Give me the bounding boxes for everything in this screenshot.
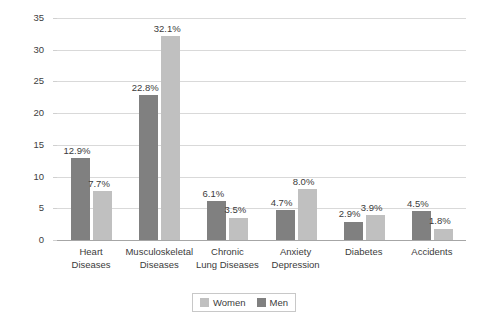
bar-men[interactable] [71, 158, 90, 240]
bar-group: 4.5%1.8% [398, 18, 466, 240]
bar-value-label: 8.0% [282, 177, 326, 187]
bar-group: 6.1%3.5% [193, 18, 261, 240]
bar-value-label: 6.1% [191, 189, 235, 199]
bar-women[interactable] [229, 218, 248, 240]
bar-group: 4.7%8.0% [262, 18, 330, 240]
y-tick-label-25: 25 [14, 76, 44, 86]
bar-pair: 2.9%3.9% [330, 18, 398, 240]
y-tick-label-20: 20 [14, 108, 44, 118]
bar-chart: Percent Contribution to Later-Life Disab… [0, 0, 482, 323]
bar-value-label: 32.1% [145, 24, 189, 34]
bar-group: 22.8%32.1% [125, 18, 193, 240]
bar-women[interactable] [366, 215, 385, 240]
bar-women[interactable] [161, 36, 180, 240]
bar-men[interactable] [276, 210, 295, 240]
bar-value-label: 12.9% [55, 146, 99, 156]
y-tick-label-15: 15 [14, 140, 44, 150]
bar-group: 2.9%3.9% [330, 18, 398, 240]
bar-women[interactable] [298, 189, 317, 240]
y-tick-label-35: 35 [14, 13, 44, 23]
legend-swatch-icon [200, 298, 209, 307]
bar-pair: 6.1%3.5% [193, 18, 261, 240]
bar-value-label: 7.7% [77, 179, 121, 189]
y-tick-label-0: 0 [14, 235, 44, 245]
axis-baseline [57, 240, 466, 241]
category-label-line: Depression [251, 259, 341, 272]
bar-value-label: 1.8% [418, 216, 462, 226]
y-tick-label-30: 30 [14, 45, 44, 55]
bar-pair: 12.9%7.7% [57, 18, 125, 240]
bar-men[interactable] [344, 222, 363, 240]
bar-group: 12.9%7.7% [57, 18, 125, 240]
bar-men[interactable] [139, 95, 158, 240]
bar-women[interactable] [93, 191, 112, 240]
plot-area: 05101520253035 12.9%7.7%22.8%32.1%6.1%3.… [57, 18, 466, 241]
y-tick-label-5: 5 [14, 203, 44, 213]
chart-legend: WomenMen [192, 293, 296, 312]
legend-item-men[interactable]: Men [257, 298, 288, 308]
legend-item-women[interactable]: Women [200, 298, 246, 308]
bar-pair: 4.7%8.0% [262, 18, 330, 240]
legend-label: Women [213, 298, 246, 308]
bar-women[interactable] [434, 229, 453, 240]
category-label-line: Accidents [387, 246, 477, 259]
bar-value-label: 3.9% [350, 203, 394, 213]
legend-label: Men [270, 298, 288, 308]
legend-swatch-icon [257, 298, 266, 307]
y-tick-label-10: 10 [14, 172, 44, 182]
bar-value-label: 4.5% [396, 199, 440, 209]
category-label: Accidents [387, 246, 477, 259]
bar-value-label: 3.5% [213, 205, 257, 215]
bar-pair: 4.5%1.8% [398, 18, 466, 240]
bar-pair: 22.8%32.1% [125, 18, 193, 240]
